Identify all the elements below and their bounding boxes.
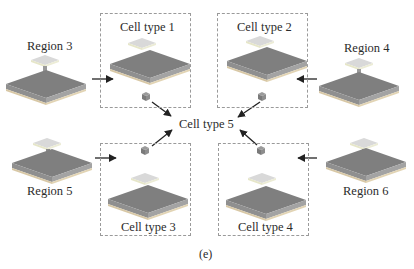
cell-type-5-label: Cell type 5 [179,117,234,132]
region-5-plate [12,138,92,184]
region-3-plate [6,55,86,105]
region-6-label: Region 6 [343,184,388,199]
region-4-plate [319,58,399,107]
cell-type-4-label: Cell type 4 [238,220,293,235]
cell-type-2-label: Cell type 2 [237,20,292,35]
figure-caption: (e) [199,247,212,262]
cell-type-1-label: Cell type 1 [120,20,175,35]
region-4-label: Region 4 [344,41,389,56]
region-3-label: Region 3 [27,39,72,54]
region-5-label: Region 5 [27,184,72,199]
region-6-plate [326,138,406,183]
cell-type-3-label: Cell type 3 [121,220,176,235]
